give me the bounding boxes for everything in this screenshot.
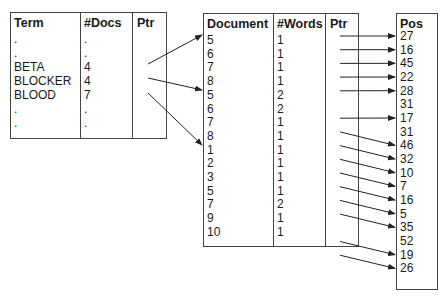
arrow-blocker bbox=[148, 78, 202, 90]
pointer-arrows bbox=[0, 0, 448, 302]
arrow-ptr-to-pos bbox=[340, 132, 395, 145]
arrow-beta bbox=[148, 35, 202, 64]
arrow-ptr-to-pos bbox=[340, 187, 395, 200]
arrow-ptr-to-pos bbox=[340, 255, 395, 268]
arrow-ptr-to-pos bbox=[340, 173, 395, 186]
arrow-ptr-to-pos bbox=[340, 159, 395, 172]
arrow-ptr-to-pos bbox=[340, 242, 395, 255]
arrow-ptr-to-pos bbox=[340, 214, 395, 227]
arrow-blood bbox=[148, 93, 202, 145]
arrow-ptr-to-pos bbox=[340, 146, 395, 159]
arrow-ptr-to-pos bbox=[340, 200, 395, 213]
